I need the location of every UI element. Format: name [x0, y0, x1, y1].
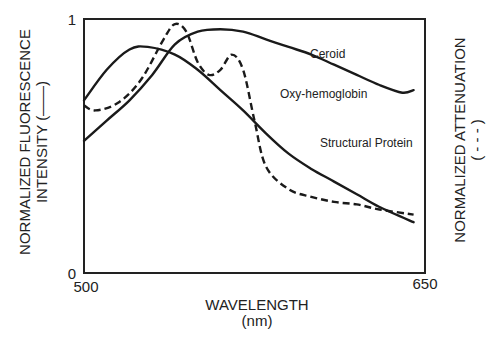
y-tick-max: 1 — [68, 11, 76, 28]
y-axis-right-title: NORMALIZED ATTENUATION — [451, 37, 468, 242]
chart: 1 0 500 650 WAVELENGTH (nm) NORMALIZED F… — [0, 0, 499, 338]
x-axis-unit: (nm) — [242, 312, 273, 329]
y-axis-left-title: NORMALIZED FLUORESCENCE — [16, 29, 33, 255]
series-structural-protein-line — [84, 46, 414, 222]
x-tick-min: 500 — [73, 278, 98, 295]
y-axis-right-subtitle: ( - - - ) — [468, 119, 485, 161]
y-axis-left-subtitle: INTENSITY (——) — [33, 81, 50, 203]
series-layer — [84, 24, 414, 222]
label-oxy-hemoglobin: Oxy-hemoglobin — [280, 87, 367, 101]
x-axis-title: WAVELENGTH — [205, 296, 308, 313]
label-structural-protein: Structural Protein — [320, 136, 413, 150]
label-ceroid: Ceroid — [310, 47, 345, 61]
series-ceroid-line — [84, 29, 414, 141]
series-oxy-hemoglobin-line — [84, 24, 414, 215]
x-tick-max: 650 — [412, 275, 437, 292]
